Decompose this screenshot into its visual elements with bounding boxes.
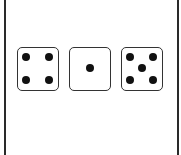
die-2-value-1[interactable] — [69, 47, 111, 91]
die-1-value-4[interactable] — [17, 47, 59, 91]
pip-icon — [45, 76, 53, 84]
pip-icon — [22, 53, 30, 61]
pip-icon — [138, 64, 146, 72]
pip-icon — [126, 53, 134, 61]
pip-icon — [126, 76, 134, 84]
die-3-value-5[interactable] — [121, 47, 163, 91]
pip-icon — [45, 53, 53, 61]
pip-icon — [86, 64, 94, 72]
pip-icon — [149, 53, 157, 61]
pip-icon — [149, 76, 157, 84]
pip-icon — [22, 76, 30, 84]
